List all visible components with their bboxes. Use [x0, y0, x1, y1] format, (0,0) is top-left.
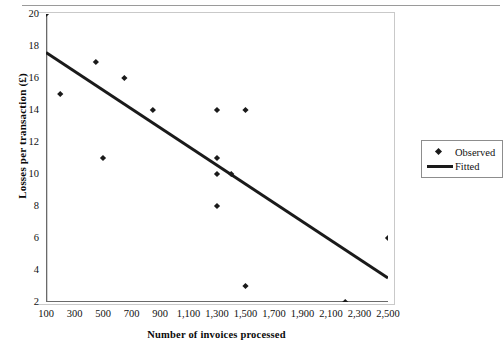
- x-tick-label: 2,300: [348, 309, 372, 319]
- observed-data-point: [342, 299, 348, 302]
- legend-item-fitted: Fitted: [427, 159, 495, 173]
- x-tick-label: 1,300: [205, 309, 229, 319]
- x-tick-label: 1,700: [262, 309, 286, 319]
- observed-data-point: [242, 107, 248, 113]
- x-tick-label: 900: [152, 309, 168, 319]
- plot-area: [46, 14, 388, 302]
- x-tick-label: 1,900: [291, 309, 315, 319]
- legend-item-observed: Observed: [427, 145, 495, 159]
- x-tick-label: 1,100: [177, 309, 201, 319]
- x-tick-label: 2,500: [376, 309, 400, 319]
- x-tick-label: 300: [67, 309, 83, 319]
- observed-data-point: [93, 59, 99, 65]
- observed-data-point: [242, 283, 248, 289]
- observed-data-point: [214, 171, 220, 177]
- legend-key-diamond-icon: [427, 146, 453, 158]
- fitted-line-series: [46, 52, 388, 278]
- legend-label-fitted: Fitted: [453, 161, 480, 172]
- observed-data-point: [57, 91, 63, 97]
- legend-label-observed: Observed: [453, 147, 495, 158]
- observed-points-series: [46, 14, 388, 302]
- x-axis-title: Number of invoices processed: [38, 329, 395, 340]
- x-tick-label: 700: [124, 309, 140, 319]
- legend-key-line-icon: [427, 160, 453, 172]
- observed-data-point: [121, 75, 127, 81]
- x-tick-label: 1,500: [234, 309, 258, 319]
- observed-data-point: [100, 155, 106, 161]
- plot-canvas-svg: [46, 14, 388, 302]
- x-tick-label: 2,100: [319, 309, 343, 319]
- y-tick-label: 2: [13, 297, 39, 307]
- fitted-regression-line: [46, 52, 388, 278]
- observed-data-point: [150, 107, 156, 113]
- x-tick-label: 500: [95, 309, 111, 319]
- observed-data-point: [214, 107, 220, 113]
- observed-data-point: [214, 155, 220, 161]
- x-tick-label: 100: [38, 309, 54, 319]
- observed-data-point: [385, 235, 388, 241]
- observed-data-point: [214, 203, 220, 209]
- chart-legend: Observed Fitted: [421, 140, 503, 178]
- y-axis-title: Losses per transaction (£): [16, 0, 28, 286]
